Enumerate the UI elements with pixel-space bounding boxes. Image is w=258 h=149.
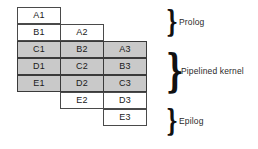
curly-brace-icon: } [166, 106, 175, 136]
phase-annotation-kernel: } Pipelined kernel [166, 47, 244, 95]
pipeline-schedule-grid: A1 B1 A2 C1 B2 A3 D1 C2 B3 E1 D2 C3 [17, 7, 148, 126]
stage-cell-empty [103, 24, 147, 41]
table-row: E1 D2 C3 [17, 75, 148, 92]
phase-label: Epilog [179, 116, 204, 126]
stage-cell-empty [17, 109, 61, 126]
phase-annotation-prolog: } Prolog [166, 8, 204, 36]
stage-cell: B2 [60, 41, 104, 58]
stage-cell: A2 [60, 24, 104, 41]
stage-cell: D2 [60, 75, 104, 92]
table-row: E2 D3 [17, 92, 148, 109]
table-row: E3 [17, 109, 148, 126]
table-row: C1 B2 A3 [17, 41, 148, 58]
stage-cell-empty [103, 7, 147, 24]
stage-cell-empty [17, 92, 61, 109]
phase-label: Prolog [179, 17, 204, 27]
stage-cell: D3 [103, 92, 147, 109]
stage-cell-empty [60, 7, 104, 24]
stage-cell: A1 [17, 7, 61, 24]
stage-cell-empty [60, 109, 104, 126]
software-pipelining-diagram: A1 B1 A2 C1 B2 A3 D1 C2 B3 E1 D2 C3 [0, 0, 258, 149]
phase-label: Pipelined kernel [181, 66, 244, 76]
stage-cell: E3 [103, 109, 147, 126]
stage-cell: E1 [17, 75, 61, 92]
table-row: D1 C2 B3 [17, 58, 148, 75]
table-row: A1 [17, 7, 148, 24]
stage-cell: C3 [103, 75, 147, 92]
table-row: B1 A2 [17, 24, 148, 41]
stage-cell: E2 [60, 92, 104, 109]
stage-cell: D1 [17, 58, 61, 75]
stage-cell: A3 [103, 41, 147, 58]
curly-brace-icon: } [166, 7, 175, 37]
phase-annotation-epilog: } Epilog [166, 106, 204, 136]
stage-cell: B3 [103, 58, 147, 75]
stage-cell: B1 [17, 24, 61, 41]
stage-cell: C1 [17, 41, 61, 58]
curly-brace-icon: } [166, 49, 176, 93]
stage-cell: C2 [60, 58, 104, 75]
